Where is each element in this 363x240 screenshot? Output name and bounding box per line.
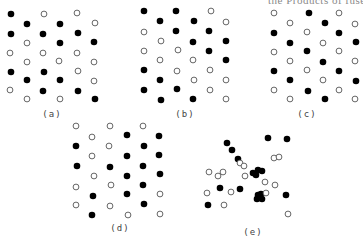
hollow-dot <box>271 49 277 55</box>
filled-dot <box>353 78 360 85</box>
hollow-dot <box>336 10 342 16</box>
hollow-dot <box>287 20 293 26</box>
hollow-dot <box>73 184 79 190</box>
filled-dot <box>322 96 329 103</box>
filled-dot <box>190 96 197 103</box>
filled-dot <box>74 163 81 170</box>
hollow-dot <box>228 189 234 195</box>
hollow-dot <box>157 191 163 197</box>
hollow-dot <box>242 173 248 179</box>
hollow-dot <box>206 169 212 175</box>
hollow-dot <box>24 59 30 65</box>
hollow-dot <box>73 202 79 208</box>
filled-dot <box>304 48 311 55</box>
panel-label-c: (c) <box>297 109 316 119</box>
hollow-dot <box>352 21 358 27</box>
filled-dot <box>253 172 260 179</box>
hollow-dot <box>40 50 46 56</box>
hollow-dot <box>336 87 342 93</box>
hollow-dot <box>91 78 97 84</box>
hollow-dot <box>271 10 277 16</box>
hollow-dot <box>174 68 180 74</box>
hollow-dot <box>125 212 131 218</box>
hollow-dot <box>208 8 214 14</box>
panel-label-a: (a) <box>42 109 61 119</box>
filled-dot <box>8 69 15 76</box>
filled-dot <box>259 196 266 203</box>
filled-dot <box>157 171 164 178</box>
panel-b <box>141 8 230 104</box>
hollow-dot <box>141 29 147 35</box>
hollow-dot <box>223 96 229 102</box>
filled-dot <box>190 39 197 46</box>
hollow-dot <box>204 190 210 196</box>
filled-dot <box>322 20 329 27</box>
filled-dot <box>124 132 131 139</box>
filled-dot <box>237 186 244 193</box>
hollow-dot <box>241 163 247 169</box>
hollow-dot <box>352 96 358 102</box>
panel-label-b: (b) <box>175 109 194 119</box>
filled-dot <box>140 163 147 170</box>
hollow-dot <box>89 134 95 140</box>
filled-dot <box>57 21 64 28</box>
filled-dot <box>141 8 148 15</box>
lattice-figure: the Products of fuse (a) (b) (c) (d) (e) <box>0 0 363 240</box>
filled-dot <box>75 88 82 95</box>
hollow-dot <box>74 10 80 16</box>
filled-dot <box>283 192 290 199</box>
filled-dot <box>92 96 99 103</box>
hollow-dot <box>263 190 269 196</box>
hollow-dot <box>276 154 282 160</box>
hollow-dot <box>190 57 196 63</box>
filled-dot <box>41 69 48 76</box>
panel-label-d: (d) <box>110 223 129 233</box>
hollow-dot <box>287 58 293 64</box>
hollow-dot <box>108 182 114 188</box>
hollow-dot <box>175 47 181 53</box>
hollow-dot <box>320 40 326 46</box>
panel-a <box>7 10 98 102</box>
hollow-dot <box>285 211 291 217</box>
filled-dot <box>107 164 114 171</box>
filled-dot <box>174 86 181 93</box>
hollow-dot <box>191 77 197 83</box>
hollow-dot <box>157 211 163 217</box>
filled-dot <box>206 48 213 55</box>
filled-dot <box>271 30 278 37</box>
filled-dot <box>173 28 180 35</box>
filled-dot <box>157 77 164 84</box>
filled-dot <box>287 40 294 47</box>
hollow-dot <box>7 50 13 56</box>
filled-dot <box>40 88 47 95</box>
filled-dot <box>73 143 80 150</box>
dot-lattice-canvas <box>0 0 363 240</box>
hollow-dot <box>107 123 113 129</box>
filled-dot <box>141 201 148 208</box>
panel-label-e: (e) <box>243 227 262 237</box>
filled-dot <box>40 31 47 38</box>
filled-dot <box>141 87 148 94</box>
filled-dot <box>8 31 15 38</box>
filled-dot <box>265 135 272 142</box>
hollow-dot <box>223 19 229 25</box>
filled-dot <box>173 8 180 15</box>
filled-dot <box>320 59 327 66</box>
filled-dot <box>336 30 343 37</box>
hollow-dot <box>57 96 63 102</box>
filled-dot <box>124 191 131 198</box>
filled-dot <box>90 193 97 200</box>
hollow-dot <box>91 173 97 179</box>
filled-dot <box>141 143 148 150</box>
hollow-dot <box>89 153 95 159</box>
hollow-dot <box>56 58 62 64</box>
hollow-dot <box>207 67 213 73</box>
hollow-dot <box>24 96 30 102</box>
hollow-dot <box>158 38 164 44</box>
filled-dot <box>259 168 266 175</box>
filled-dot <box>223 38 230 45</box>
filled-dot <box>353 39 360 46</box>
panel-e <box>204 135 291 217</box>
hollow-dot <box>157 57 163 63</box>
hollow-dot <box>221 202 227 208</box>
